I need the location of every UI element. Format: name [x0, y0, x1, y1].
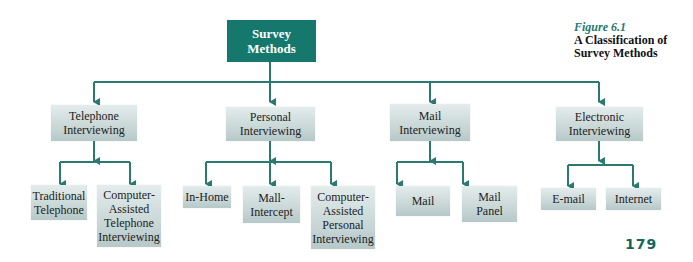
node-e-mail: E-mail	[541, 188, 596, 210]
node-survey-methods: Survey Methods	[227, 20, 316, 62]
node-capi: Computer- Assisted Personal Interviewing	[311, 186, 375, 249]
node-mail-panel: Mail Panel	[462, 186, 517, 222]
figure-caption: Figure 6.1 A Classification of Survey Me…	[574, 20, 692, 60]
node-in-home: In-Home	[183, 186, 231, 208]
node-mail-interviewing: Mail Interviewing	[390, 104, 470, 141]
node-electronic-interviewing: Electronic Interviewing	[556, 107, 643, 141]
node-traditional-telephone: Traditional Telephone	[31, 185, 87, 220]
node-cati: Computer- Assisted Telephone Interviewin…	[97, 185, 161, 247]
node-telephone-interviewing: Telephone Interviewing	[51, 105, 137, 141]
figure-title: A Classification of Survey Methods	[574, 34, 692, 60]
node-mall-intercept: Mall- Intercept	[243, 186, 300, 223]
page-number: 179	[625, 236, 657, 252]
node-internet: Internet	[606, 188, 661, 210]
node-personal-interviewing: Personal Interviewing	[226, 107, 315, 141]
node-mail: Mail	[396, 186, 450, 216]
figure-number: Figure 6.1	[574, 20, 692, 34]
